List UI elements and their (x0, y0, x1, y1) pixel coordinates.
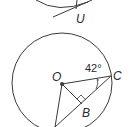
label-b: B (82, 106, 90, 120)
perpendicular-ob (62, 84, 82, 104)
label-c: C (113, 69, 122, 83)
angle-label: 42° (85, 62, 102, 74)
radius-to-bottom (55, 84, 62, 127)
geometry-diagram: U O C B 42° (0, 0, 136, 127)
tangent-line (53, 0, 92, 17)
main-figure: O C B 42° (12, 33, 122, 127)
label-o: O (52, 70, 61, 84)
right-angle-mark (77, 95, 86, 100)
label-u: U (76, 12, 85, 26)
top-figure: U (36, 0, 92, 26)
radius-to-u (76, 0, 77, 9)
top-circle-arc (36, 0, 88, 8)
